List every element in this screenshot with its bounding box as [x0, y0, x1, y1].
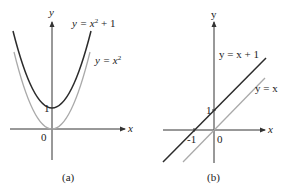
curve-bottom-label: y = x2 [94, 54, 122, 66]
y-axis-label: y [211, 8, 217, 20]
x-axis-label: x [267, 123, 273, 135]
origin-label: 0 [41, 131, 47, 143]
panel-a-caption: (a) [62, 171, 75, 184]
figure: y x 0 1 y = x2 + 1 y = x2 (a) y x 0 1 -1… [0, 0, 294, 190]
tick-1-label: 1 [206, 104, 212, 116]
line-y-equals-x [183, 78, 265, 162]
line-top-label: y = x + 1 [219, 48, 259, 60]
tick-1-label: 1 [44, 102, 50, 114]
panel-a: y x 0 1 y = x2 + 1 y = x2 (a) [10, 6, 133, 184]
panel-b-caption: (b) [207, 171, 220, 184]
panel-b: y x 0 1 -1 y = x + 1 y = x (b) [163, 8, 278, 184]
x-axis-label: x [127, 122, 133, 134]
line-bottom-label: y = x [255, 82, 278, 94]
curve-top-label: y = x2 + 1 [71, 17, 115, 29]
origin-label: 0 [217, 133, 223, 145]
y-axis-label: y [48, 6, 54, 18]
tick-neg1-label: -1 [187, 133, 196, 145]
